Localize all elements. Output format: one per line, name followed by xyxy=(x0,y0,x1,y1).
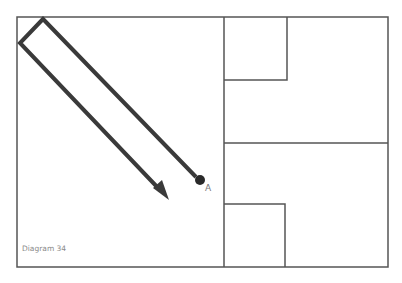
point-a-marker xyxy=(195,175,205,185)
point-a-label: A xyxy=(205,183,212,193)
movement-path xyxy=(20,19,196,190)
diagram-canvas: A xyxy=(0,0,402,283)
top-small-box xyxy=(224,17,287,80)
outer-frame xyxy=(17,17,388,267)
bottom-small-box xyxy=(224,204,285,267)
diagram-caption: Diagram 34 xyxy=(22,244,66,253)
